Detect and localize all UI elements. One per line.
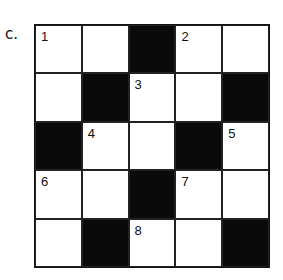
crossword-grid: 12345678 — [34, 24, 270, 268]
answer-cell[interactable]: 4 — [82, 122, 129, 170]
answer-cell[interactable]: 5 — [222, 122, 269, 170]
answer-cell[interactable]: 6 — [35, 170, 82, 218]
answer-cell[interactable]: 3 — [129, 73, 176, 121]
answer-cell[interactable] — [35, 219, 82, 267]
clue-number: 7 — [181, 174, 188, 189]
clue-number: 8 — [135, 223, 142, 238]
clue-number: 2 — [181, 29, 188, 44]
puzzle-label: c. — [5, 25, 18, 43]
answer-cell[interactable]: 7 — [175, 170, 222, 218]
answer-cell[interactable] — [35, 73, 82, 121]
answer-cell[interactable]: 2 — [175, 25, 222, 73]
answer-cell[interactable] — [222, 25, 269, 73]
answer-cell[interactable] — [175, 219, 222, 267]
clue-number: 1 — [41, 29, 48, 44]
answer-cell[interactable]: 8 — [129, 219, 176, 267]
black-square — [82, 219, 129, 267]
black-square — [82, 73, 129, 121]
black-square — [35, 122, 82, 170]
clue-number: 3 — [135, 77, 142, 92]
black-square — [222, 219, 269, 267]
black-square — [222, 73, 269, 121]
clue-number: 4 — [88, 126, 95, 141]
answer-cell[interactable] — [222, 170, 269, 218]
answer-cell[interactable] — [129, 122, 176, 170]
answer-cell[interactable] — [175, 73, 222, 121]
black-square — [129, 170, 176, 218]
answer-cell[interactable] — [82, 170, 129, 218]
black-square — [175, 122, 222, 170]
answer-cell[interactable]: 1 — [35, 25, 82, 73]
answer-cell[interactable] — [82, 25, 129, 73]
clue-number: 6 — [41, 174, 48, 189]
clue-number: 5 — [228, 126, 235, 141]
black-square — [129, 25, 176, 73]
